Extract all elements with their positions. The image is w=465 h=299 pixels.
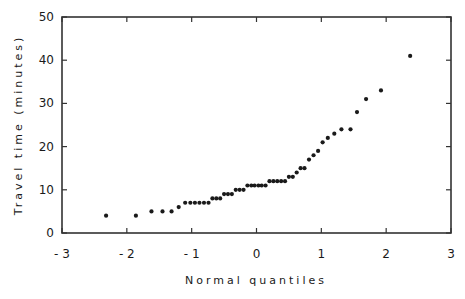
y-axis-title: Travel time (minutes) (12, 35, 25, 217)
data-point (160, 209, 164, 213)
data-point (104, 214, 108, 218)
data-point (271, 179, 275, 183)
data-point (169, 209, 173, 213)
data-point (364, 97, 368, 101)
data-point (183, 201, 187, 205)
data-point (307, 157, 311, 161)
data-point (188, 201, 192, 205)
data-point (348, 127, 352, 131)
data-point (252, 183, 256, 187)
x-tick-label: 0 (253, 247, 261, 261)
x-tick-label: 2 (382, 247, 390, 261)
y-tick-label: 0 (46, 226, 54, 240)
data-point (206, 201, 210, 205)
qq-plot: - 3- 2- 1012301020304050 Normal quantile… (0, 0, 465, 299)
data-point (210, 196, 214, 200)
data-points (104, 54, 412, 218)
data-point (298, 166, 302, 170)
y-tick-label: 40 (39, 53, 54, 67)
data-point (326, 136, 330, 140)
data-point (279, 179, 283, 183)
data-point (260, 183, 264, 187)
data-point (267, 179, 271, 183)
y-tick-label: 20 (39, 140, 54, 154)
data-point (226, 192, 230, 196)
y-tick-label: 30 (39, 96, 54, 110)
data-point (134, 214, 138, 218)
data-point (275, 179, 279, 183)
data-point (283, 179, 287, 183)
data-point (332, 132, 336, 136)
x-tick-label: 3 (447, 247, 455, 261)
data-point (291, 175, 295, 179)
x-tick-label: - 3 (54, 247, 70, 261)
y-tick-label: 10 (39, 183, 54, 197)
data-point (214, 196, 218, 200)
data-point (302, 166, 306, 170)
data-point (295, 170, 299, 174)
data-point (238, 188, 242, 192)
data-point (355, 110, 359, 114)
data-point (379, 88, 383, 92)
y-tick-label: 50 (39, 10, 54, 24)
x-tick-label: 1 (318, 247, 326, 261)
data-point (408, 54, 412, 58)
x-axis-title: Normal quantiles (185, 274, 327, 287)
data-point (218, 196, 222, 200)
data-point (230, 192, 234, 196)
data-point (177, 205, 181, 209)
data-point (287, 175, 291, 179)
data-point (149, 209, 153, 213)
data-point (263, 183, 267, 187)
x-tick-label: - 1 (184, 247, 200, 261)
data-point (222, 192, 226, 196)
plot-frame (62, 17, 451, 233)
data-point (202, 201, 206, 205)
data-point (245, 183, 249, 187)
data-point (311, 153, 315, 157)
x-tick-label: - 2 (119, 247, 135, 261)
data-point (234, 188, 238, 192)
data-point (316, 149, 320, 153)
data-point (339, 127, 343, 131)
axis-ticks: - 3- 2- 1012301020304050 (39, 10, 455, 261)
data-point (321, 140, 325, 144)
data-point (241, 188, 245, 192)
data-point (193, 201, 197, 205)
data-point (197, 201, 201, 205)
